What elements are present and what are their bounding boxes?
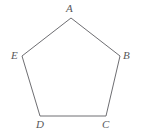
pentagon-shape xyxy=(0,0,143,138)
vertex-label-a: A xyxy=(66,3,73,14)
vertex-label-e: E xyxy=(11,50,18,61)
pentagon-diagram: A B C D E xyxy=(0,0,143,138)
vertex-label-d: D xyxy=(36,119,44,130)
pentagon-outline xyxy=(22,18,120,116)
vertex-label-c: C xyxy=(102,119,109,130)
vertex-label-b: B xyxy=(123,50,130,61)
